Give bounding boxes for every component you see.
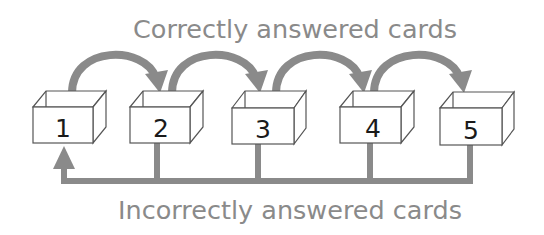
arrow-3-to-4: [276, 55, 360, 93]
arrow-1-to-2: [72, 55, 156, 93]
box-number: 3: [255, 115, 271, 144]
box-number: 1: [55, 114, 71, 143]
arrowhead-icon: [449, 70, 472, 93]
box-back: [232, 91, 306, 108]
box-number: 2: [153, 114, 169, 143]
box-back: [440, 92, 514, 108]
box-number: 5: [463, 116, 479, 145]
correct-cards-label: Correctly answered cards: [133, 14, 457, 44]
incorrect-cards-label: Incorrectly answered cards: [118, 195, 462, 225]
arrowhead-icon: [349, 70, 372, 93]
arrowhead-icon: [145, 70, 168, 93]
forward-arrowheads: [145, 70, 472, 93]
arrowhead-icon: [245, 70, 268, 93]
box-number: 4: [365, 114, 381, 143]
return-path: [64, 143, 470, 181]
up-arrowhead-icon: [53, 146, 75, 169]
leitner-system-diagram: Correctly answered cards 1 2: [0, 0, 544, 235]
return-line: [64, 145, 470, 181]
arrow-2-to-3: [172, 55, 256, 93]
arrow-4-to-5: [374, 55, 460, 93]
